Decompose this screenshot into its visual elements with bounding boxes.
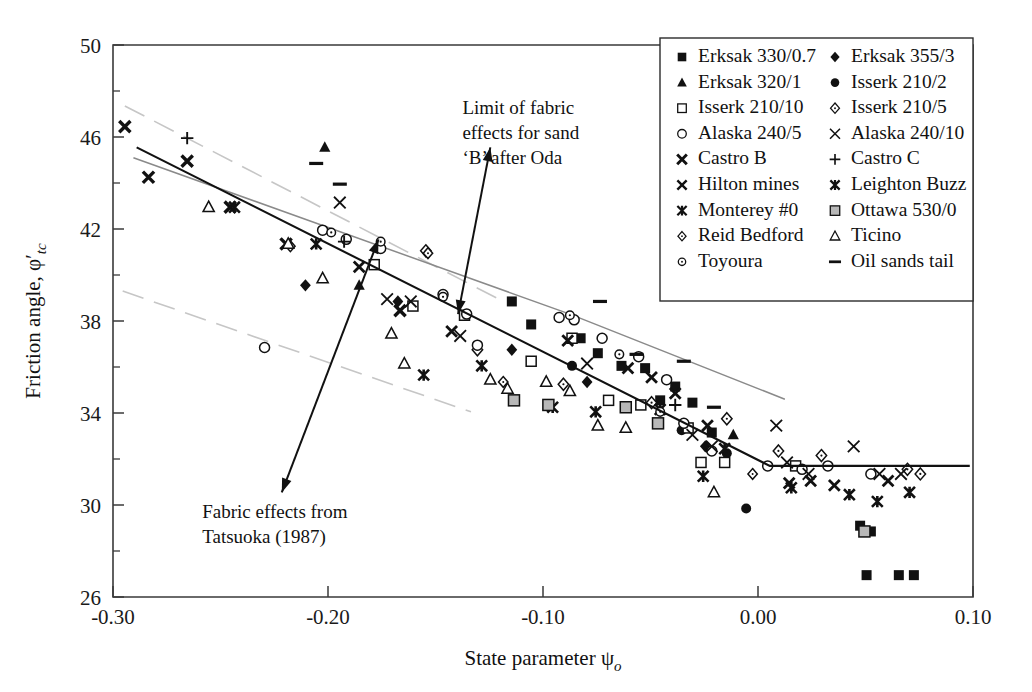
marker-open-circle <box>472 340 482 350</box>
line-tatsuoka-lower <box>123 291 471 412</box>
marker-open-diamond <box>915 468 925 480</box>
marker-open-diamond <box>816 450 826 462</box>
marker-open-triangle <box>541 376 552 386</box>
annotation-layer: Limit of fabriceffects for sand‘B’ after… <box>202 97 579 548</box>
legend-item-label: Ticino <box>851 224 901 245</box>
marker-star-bold <box>844 489 855 500</box>
marker-filled-square <box>909 570 919 580</box>
marker-filled-circle <box>741 503 751 513</box>
marker-open-circle-sm <box>615 350 624 359</box>
annotation-arrow-shaft <box>282 239 379 492</box>
marker-star-bold <box>476 360 487 371</box>
marker-open-circle <box>866 469 876 479</box>
marker-open-triangle <box>399 358 410 368</box>
y-tick-label: 38 <box>80 310 101 334</box>
marker-open-circle <box>341 234 351 244</box>
legend-item-label: Reid Bedford <box>698 224 804 245</box>
marker-dash <box>677 360 691 363</box>
marker-filled-square <box>640 363 650 373</box>
legend-item-label: Alaska 240/10 <box>851 122 964 143</box>
series-oil-sands-tail <box>309 162 721 409</box>
chart-legend[interactable]: Erksak 330/0.7Erksak 320/1Isserk 210/10A… <box>660 38 973 301</box>
series-monterey-0 <box>229 201 730 454</box>
annotation-arrowhead <box>282 478 292 493</box>
marker-filled-diamond <box>506 344 517 356</box>
scatter-chart: 26303438424650-0.30-0.20-0.100.000.10 Li… <box>0 0 1032 692</box>
marker-x-bold2 <box>354 262 365 273</box>
y-axis-title: Friction angle, φ′tc <box>21 243 49 399</box>
legend-item[interactable]: Alaska 240/10 <box>830 122 964 143</box>
marker-dash <box>630 353 644 356</box>
legend-item-label: Isserk 210/10 <box>698 96 804 117</box>
annotation-text-line: Tatsuoka (1987) <box>202 526 326 548</box>
legend-item[interactable]: Erksak 330/0.7 <box>678 45 817 66</box>
marker-filled-square <box>507 296 517 306</box>
marker-star-bold <box>904 487 915 498</box>
marker-filled-square <box>593 348 603 358</box>
marker-filled-circle <box>831 78 840 87</box>
legend-item-label: Alaska 240/5 <box>698 122 801 143</box>
marker-x-thin <box>770 420 782 432</box>
marker-x-thin <box>848 441 860 453</box>
marker-open-triangle <box>620 422 631 432</box>
marker-open-circle <box>318 225 328 235</box>
marker-x-thin <box>334 197 346 209</box>
marker-open-circle <box>260 342 270 352</box>
annotation-text-line: effects for sand <box>462 122 579 143</box>
marker-dash <box>829 260 841 263</box>
annotation-text-line: Fabric effects from <box>202 501 347 522</box>
marker-filled-square <box>526 319 536 329</box>
marker-open-square <box>526 356 536 366</box>
annotation-text-line: Limit of fabric <box>462 97 574 118</box>
legend-item-label: Monterey #0 <box>698 199 798 220</box>
marker-shaded-square <box>543 399 554 410</box>
y-tick-label: 34 <box>80 402 102 426</box>
marker-dash <box>309 162 323 165</box>
marker-open-diamond <box>558 378 568 390</box>
marker-shaded-square <box>620 402 631 413</box>
marker-filled-diamond <box>582 376 593 388</box>
marker-shaded-square <box>859 526 870 537</box>
marker-dash <box>593 300 607 303</box>
series-ticino <box>203 201 719 497</box>
marker-filled-diamond <box>300 279 311 291</box>
y-axis-title-group: Friction angle, φ′tc <box>21 243 49 399</box>
marker-x-thin <box>895 468 907 480</box>
marker-plus <box>669 399 681 411</box>
marker-filled-square <box>894 570 904 580</box>
legend-item-label: Oil sands tail <box>851 250 954 271</box>
marker-open-triangle <box>317 272 328 282</box>
marker-open-triangle <box>203 201 214 211</box>
legend-item-label: Leighton Buzz <box>851 173 967 194</box>
marker-x-bold <box>182 156 193 167</box>
x-tick-label: -0.20 <box>306 605 350 629</box>
marker-filled-square <box>678 53 687 62</box>
marker-plus <box>181 132 193 144</box>
x-axis-title: State parameter ψo <box>464 646 622 674</box>
x-tick-label: 0.10 <box>955 605 992 629</box>
annotation-text-line: ‘B’ after Oda <box>462 147 562 168</box>
marker-open-diamond-sm <box>748 469 757 480</box>
annotation-oda: Limit of fabriceffects for sand‘B’ after… <box>456 97 580 314</box>
annotation-arrow-shaft <box>458 147 490 314</box>
legend-item-label: Castro C <box>851 147 920 168</box>
marker-x-bold <box>143 172 154 183</box>
marker-dash <box>333 183 347 186</box>
marker-open-circle <box>554 313 564 323</box>
marker-x-bold2 <box>883 475 894 486</box>
line-tatsuoka-upper <box>125 106 501 300</box>
marker-open-circle-sm <box>327 228 336 237</box>
marker-open-triangle <box>708 486 719 496</box>
y-tick-label: 46 <box>80 126 101 150</box>
marker-shaded-square <box>830 206 839 215</box>
marker-open-triangle <box>592 420 603 430</box>
legend-item[interactable]: Leighton Buzz <box>830 173 966 194</box>
marker-open-triangle <box>386 328 397 338</box>
legend-item-label: Castro B <box>698 147 767 168</box>
figure-root: 26303438424650-0.30-0.20-0.100.000.10 Li… <box>0 0 1032 692</box>
marker-open-square <box>604 395 614 405</box>
marker-x-bold2 <box>829 480 840 491</box>
marker-open-square <box>678 104 687 113</box>
marker-open-circle-sm <box>566 311 575 320</box>
marker-filled-triangle <box>319 141 330 151</box>
